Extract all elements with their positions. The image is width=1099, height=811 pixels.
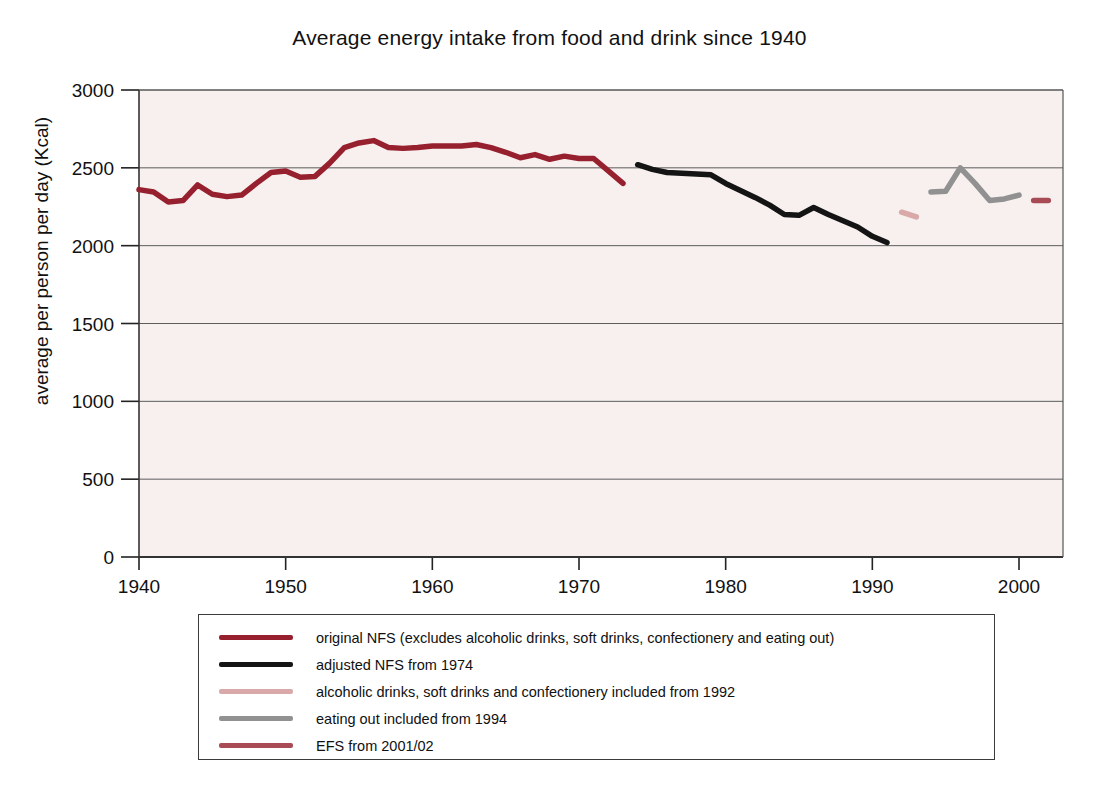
x-axis-ticks: 1940195019601970198019902000: [118, 557, 1040, 597]
svg-text:3000: 3000: [72, 80, 114, 101]
svg-text:1990: 1990: [851, 576, 893, 597]
legend-item-label: alcoholic drinks, soft drinks and confec…: [316, 684, 735, 700]
legend-swatch-line-icon: [219, 662, 293, 667]
svg-text:500: 500: [82, 469, 114, 490]
svg-text:2000: 2000: [998, 576, 1040, 597]
legend-swatch-line-icon: [219, 743, 293, 748]
legend-item-label: original NFS (excludes alcoholic drinks,…: [316, 630, 834, 646]
svg-text:0: 0: [103, 547, 114, 568]
legend-swatch-line-icon: [219, 716, 293, 721]
legend-swatch-line-icon: [219, 689, 293, 694]
svg-text:1000: 1000: [72, 391, 114, 412]
chart-page: Average energy intake from food and drin…: [0, 0, 1099, 811]
svg-text:2000: 2000: [72, 236, 114, 257]
legend-swatch-line-icon: [219, 635, 293, 640]
legend-item[interactable]: adjusted NFS from 1974: [199, 651, 994, 678]
svg-text:1500: 1500: [72, 314, 114, 335]
legend-item-label: EFS from 2001/02: [316, 738, 434, 754]
legend-item[interactable]: original NFS (excludes alcoholic drinks,…: [199, 624, 994, 651]
legend-item-label: eating out included from 1994: [316, 711, 507, 727]
svg-text:1980: 1980: [705, 576, 747, 597]
legend-item[interactable]: alcoholic drinks, soft drinks and confec…: [199, 678, 994, 705]
svg-text:1960: 1960: [411, 576, 453, 597]
legend-item[interactable]: EFS from 2001/02: [199, 732, 994, 759]
legend-item[interactable]: eating out included from 1994: [199, 705, 994, 732]
chart-legend: original NFS (excludes alcoholic drinks,…: [198, 614, 995, 760]
legend-item-label: adjusted NFS from 1974: [316, 657, 473, 673]
svg-text:1970: 1970: [558, 576, 600, 597]
y-axis-ticks: 050010001500200025003000: [72, 80, 139, 568]
svg-text:2500: 2500: [72, 158, 114, 179]
svg-text:1940: 1940: [118, 576, 160, 597]
svg-text:1950: 1950: [265, 576, 307, 597]
